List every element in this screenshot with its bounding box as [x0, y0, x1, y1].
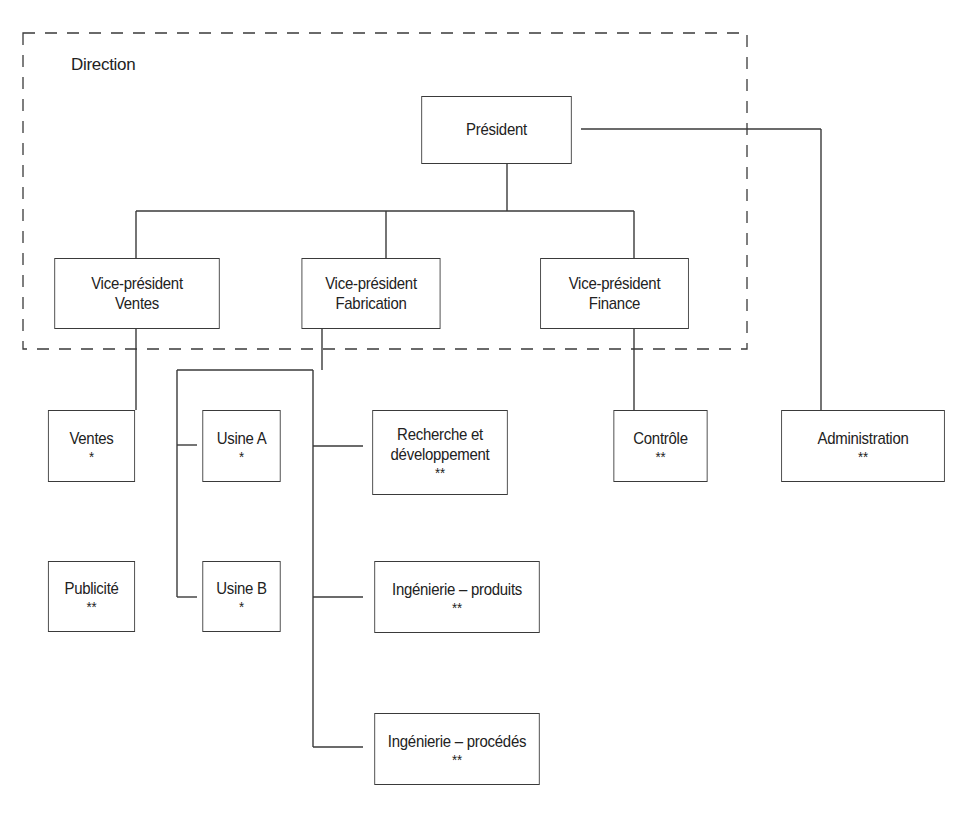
node-usine-b: Usine B * — [202, 561, 280, 632]
node-marker: ** — [656, 450, 666, 464]
node-line2: Ventes — [115, 294, 159, 314]
node-marker: ** — [87, 600, 97, 614]
node-title: Usine A — [217, 429, 267, 449]
node-controle: Contrôle ** — [613, 410, 707, 482]
node-line1: Vice-président — [325, 274, 417, 294]
node-ingenierie-produits: Ingénierie – produits ** — [374, 561, 539, 633]
node-marker: * — [89, 450, 94, 464]
node-marker: * — [239, 450, 244, 464]
node-title: Usine B — [216, 579, 267, 599]
org-chart: Direction Président Vice-président Vente… — [0, 0, 975, 814]
node-marker: ** — [435, 466, 445, 480]
node-vp-ventes: Vice-président Ventes — [54, 258, 219, 329]
node-ingenierie-procedes: Ingénierie – procédés ** — [374, 713, 539, 785]
node-usine-a: Usine A * — [202, 410, 280, 482]
node-administration: Administration ** — [781, 410, 945, 482]
node-line1: Recherche et — [397, 425, 483, 445]
direction-group-label: Direction — [71, 55, 135, 75]
node-marker: ** — [452, 601, 462, 615]
node-recherche-developpement: Recherche et développement ** — [372, 410, 508, 495]
node-title: Publicité — [64, 579, 118, 599]
node-title: Contrôle — [633, 429, 687, 449]
node-line1: Vice-président — [569, 274, 661, 294]
node-marker: ** — [452, 753, 462, 767]
node-title: Ingénierie – produits — [392, 580, 522, 600]
node-ventes: Ventes * — [48, 410, 135, 482]
node-line1: Vice-président — [91, 274, 183, 294]
node-line2: Fabrication — [335, 294, 406, 314]
node-president: Président — [421, 96, 571, 164]
node-title: Président — [466, 120, 527, 140]
node-line2: développement — [391, 445, 490, 465]
node-marker: * — [239, 600, 244, 614]
node-publicite: Publicité ** — [48, 561, 135, 632]
node-title: Administration — [817, 429, 908, 449]
node-line2: Finance — [589, 294, 640, 314]
node-vp-fabrication: Vice-président Fabrication — [301, 258, 440, 329]
node-vp-finance: Vice-président Finance — [540, 258, 689, 329]
node-title: Ventes — [69, 429, 113, 449]
node-title: Ingénierie – procédés — [388, 732, 526, 752]
node-marker: ** — [858, 450, 868, 464]
